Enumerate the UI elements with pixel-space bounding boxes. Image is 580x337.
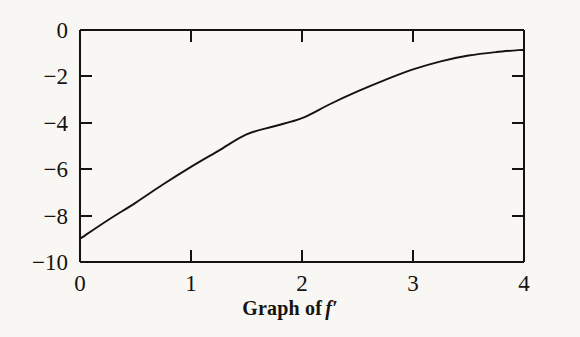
axis-ticks — [80, 30, 524, 262]
y-tick-label: −8 — [44, 204, 68, 227]
y-tick-label: −6 — [44, 158, 68, 181]
caption-function-label: f′ — [322, 297, 338, 319]
curve-f-prime — [80, 50, 524, 239]
y-tick-label: −4 — [44, 111, 68, 134]
x-tick-label: 3 — [407, 272, 419, 295]
x-tick-label: 0 — [74, 272, 86, 295]
y-tick-label: 0 — [57, 19, 69, 42]
x-tick-label: 2 — [296, 272, 308, 295]
y-tick-label: −10 — [32, 251, 68, 274]
figure-caption: Graph off′ — [0, 297, 580, 320]
y-tick-label: −2 — [44, 65, 68, 88]
graph-figure: 0−2−4−6−8−10 01234 Graph off′ — [0, 0, 580, 337]
plot-frame — [80, 30, 524, 262]
plot-area — [0, 0, 580, 337]
caption-text: Graph of — [242, 297, 322, 319]
x-tick-label: 1 — [185, 272, 197, 295]
x-tick-label: 4 — [518, 272, 530, 295]
